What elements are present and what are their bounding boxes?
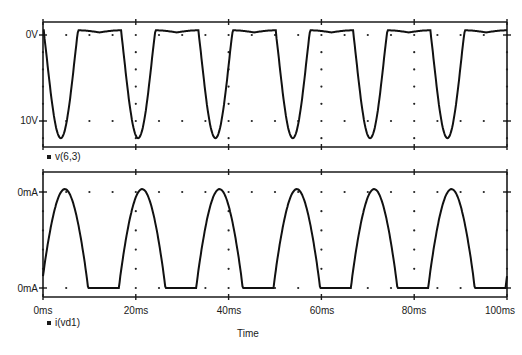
grid-dot — [181, 191, 183, 193]
x-tick-100ms: 100ms — [485, 305, 515, 316]
grid-dot — [204, 191, 206, 193]
grid-dot — [506, 268, 508, 270]
grid-dot — [460, 191, 462, 193]
grid-dot — [320, 191, 322, 193]
y-tick-0ma-top: 0mA — [17, 187, 38, 198]
grid-dot — [42, 103, 44, 105]
upper-grid-dots — [42, 34, 508, 139]
grid-dot — [413, 249, 415, 251]
upper-axis-ticks — [39, 19, 511, 150]
grid-dot — [135, 268, 137, 270]
grid-dot — [297, 287, 299, 289]
upper-plot: 0V 10V v(6,3) — [20, 19, 511, 162]
grid-dot — [506, 249, 508, 251]
grid-dot — [228, 191, 230, 193]
x-tick-60ms: 60ms — [310, 305, 334, 316]
grid-dot — [460, 287, 462, 289]
grid-dot — [251, 34, 253, 36]
grid-dot — [65, 287, 67, 289]
grid-dot — [506, 68, 508, 70]
legend-ivd1: i(vd1) — [55, 317, 80, 328]
grid-dot — [228, 287, 230, 289]
legend-v63: v(6,3) — [55, 151, 81, 162]
x-tick-80ms: 80ms — [402, 305, 426, 316]
grid-dot — [274, 120, 276, 122]
grid-dot — [413, 137, 415, 139]
grid-dot — [413, 34, 415, 36]
grid-dot — [42, 51, 44, 53]
x-tick-40ms: 40ms — [217, 305, 241, 316]
grid-dot — [390, 287, 392, 289]
x-axis-title: Time — [237, 328, 259, 339]
grid-dot — [228, 268, 230, 270]
grid-dot — [181, 120, 183, 122]
grid-dot — [344, 191, 346, 193]
grid-dot — [204, 287, 206, 289]
grid-dot — [367, 120, 369, 122]
grid-dot — [228, 229, 230, 231]
grid-dot — [42, 229, 44, 231]
grid-dot — [367, 191, 369, 193]
grid-dot — [228, 137, 230, 139]
grid-dot — [506, 229, 508, 231]
grid-dot — [413, 210, 415, 212]
grid-dot — [88, 34, 90, 36]
grid-dot — [204, 120, 206, 122]
grid-dot — [42, 68, 44, 70]
legend-marker-ivd1 — [47, 321, 51, 325]
grid-dot — [135, 86, 137, 88]
grid-dot — [320, 103, 322, 105]
grid-dot — [320, 120, 322, 122]
grid-dot — [320, 68, 322, 70]
grid-dot — [320, 51, 322, 53]
grid-dot — [181, 34, 183, 36]
grid-dot — [390, 191, 392, 193]
grid-dot — [204, 34, 206, 36]
grid-dot — [228, 120, 230, 122]
grid-dot — [320, 268, 322, 270]
grid-dot — [413, 268, 415, 270]
grid-dot — [436, 120, 438, 122]
grid-dot — [135, 210, 137, 212]
grid-dot — [320, 34, 322, 36]
x-tick-20ms: 20ms — [124, 305, 148, 316]
grid-dot — [344, 34, 346, 36]
y-tick-0v: 0V — [26, 29, 39, 40]
grid-dot — [413, 86, 415, 88]
grid-dot — [344, 120, 346, 122]
grid-dot — [228, 34, 230, 36]
grid-dot — [483, 120, 485, 122]
grid-dot — [506, 210, 508, 212]
y-tick-0ma-bottom: 0mA — [17, 283, 38, 294]
grid-dot — [88, 191, 90, 193]
grid-dot — [483, 34, 485, 36]
grid-dot — [135, 287, 137, 289]
grid-dot — [251, 120, 253, 122]
grid-dot — [320, 249, 322, 251]
grid-dot — [320, 210, 322, 212]
grid-dot — [413, 120, 415, 122]
grid-dot — [158, 287, 160, 289]
grid-dot — [135, 249, 137, 251]
grid-dot — [228, 86, 230, 88]
grid-dot — [42, 249, 44, 251]
grid-dot — [506, 103, 508, 105]
grid-dot — [483, 191, 485, 193]
grid-dot — [390, 34, 392, 36]
grid-dot — [42, 137, 44, 139]
grid-dot — [436, 191, 438, 193]
grid-dot — [320, 86, 322, 88]
grid-dot — [413, 68, 415, 70]
grid-dot — [158, 34, 160, 36]
grid-dot — [274, 191, 276, 193]
grid-dot — [112, 191, 114, 193]
grid-dot — [436, 34, 438, 36]
grid-dot — [228, 103, 230, 105]
grid-dot — [158, 191, 160, 193]
grid-dot — [135, 51, 137, 53]
grid-dot — [506, 137, 508, 139]
legend-marker-v63 — [47, 155, 51, 159]
grid-dot — [367, 287, 369, 289]
grid-dot — [228, 249, 230, 251]
grid-dot — [65, 34, 67, 36]
